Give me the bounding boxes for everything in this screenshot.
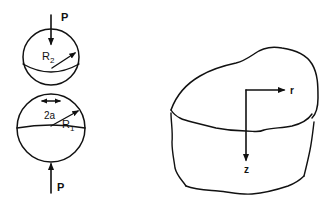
two-spheres-panel: P R2 2a R1 P [17,11,85,193]
half-space-right-side [304,122,314,176]
contact-mechanics-figure: P R2 2a R1 P [0,0,331,206]
z-axis-label: z [244,164,249,175]
half-space-left-side [171,113,186,186]
contact-width-indicator: 2a [42,101,60,121]
contact-width-label: 2a [44,110,56,121]
half-space-bottom-edge [186,176,304,194]
bottom-load-label: P [57,181,64,193]
bottom-load-arrow: P [51,164,64,193]
half-space-panel: r z [171,47,318,194]
lower-sphere-radius-label: R1 [62,118,75,133]
r-axis-label: r [290,85,294,96]
half-space-top-surface [171,47,318,118]
lower-sphere: R1 [17,94,85,162]
upper-sphere-radius-label: R2 [42,50,55,65]
top-load-arrow: P [51,11,68,44]
coordinate-axes: r z [244,85,294,175]
top-load-label: P [61,11,68,23]
half-space-front-edge [171,110,312,132]
